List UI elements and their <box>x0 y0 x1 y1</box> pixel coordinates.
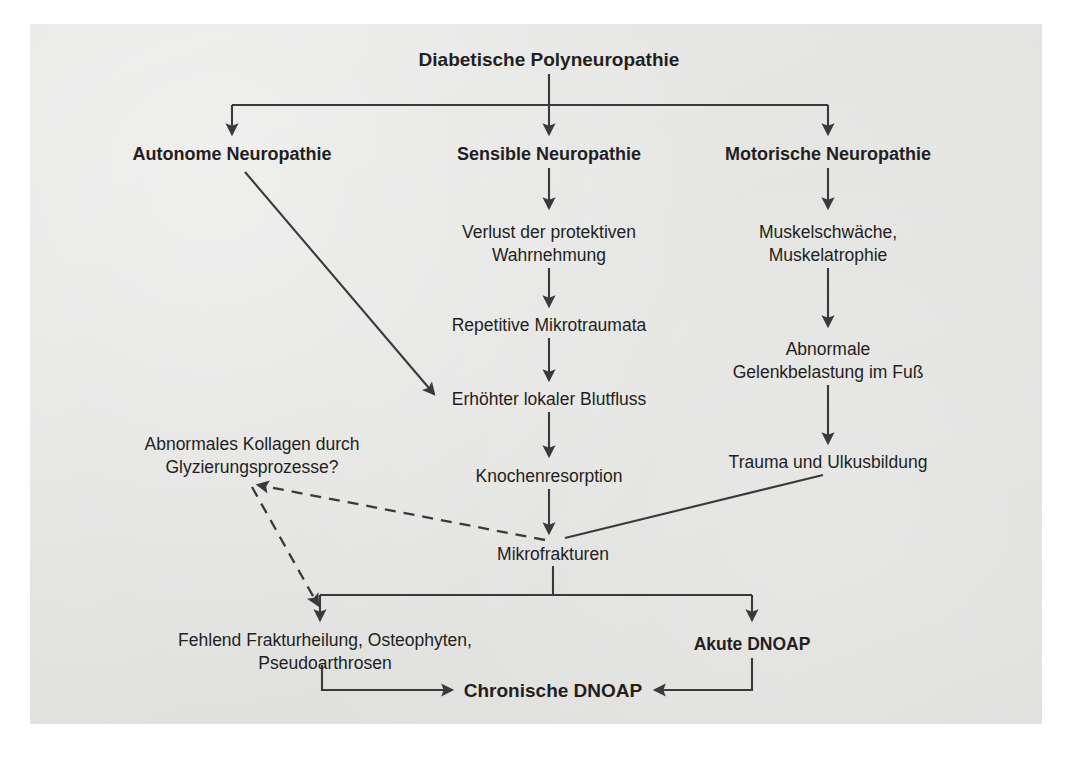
node-sensory-4: Knochenresorption <box>476 466 623 486</box>
node-nonunion-line1: Fehlend Frakturheilung, Osteophyten, <box>178 630 472 650</box>
node-branch-sensory: Sensible Neuropathie <box>457 144 641 164</box>
node-branch-autonomic: Autonome Neuropathie <box>132 144 331 164</box>
node-sensory-1-line2: Wahrnehmung <box>492 245 606 265</box>
node-motor-2-line2: Gelenkbelastung im Fuß <box>733 362 924 382</box>
node-sensory-1-line1: Verlust der protektiven <box>462 222 636 242</box>
node-motor-1-line1: Muskelschwäche, <box>759 222 897 242</box>
edge-collagen-to-nonunion <box>252 487 318 605</box>
flowchart-canvas: Diabetische Polyneuropathie Autonome Neu… <box>0 0 1070 760</box>
figure-root: Diabetische Polyneuropathie Autonome Neu… <box>0 0 1070 760</box>
edge-acute-to-chronic <box>655 658 752 690</box>
edge-microfractures-to-collagen <box>258 485 545 540</box>
node-motor-3: Trauma und Ulkusbildung <box>729 452 928 472</box>
node-microfractures: Mikrofrakturen <box>497 544 609 564</box>
node-collagen-line1: Abnormales Kollagen durch <box>145 434 360 454</box>
label-layer: Diabetische Polyneuropathie Autonome Neu… <box>132 49 931 701</box>
connector-layer <box>232 74 828 690</box>
node-chronic-dnoap: Chronische DNOAP <box>464 680 643 701</box>
node-motor-1-line2: Muskelatrophie <box>769 245 888 265</box>
node-collagen-line2: Glyzierungsprozesse? <box>165 457 338 477</box>
edge-autonomic-to-s3 <box>245 172 434 394</box>
node-root: Diabetische Polyneuropathie <box>419 49 680 70</box>
node-branch-motor: Motorische Neuropathie <box>725 144 931 164</box>
node-sensory-3: Erhöhter lokaler Blutfluss <box>452 389 647 409</box>
node-acute-dnoap: Akute DNOAP <box>694 634 811 654</box>
node-motor-2-line1: Abnormale <box>786 339 871 359</box>
node-sensory-2: Repetitive Mikrotraumata <box>452 315 647 335</box>
node-nonunion-line2: Pseudoarthrosen <box>258 653 391 673</box>
